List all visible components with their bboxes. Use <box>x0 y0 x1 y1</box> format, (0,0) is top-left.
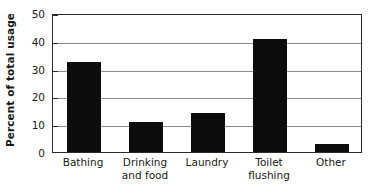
x-axis-tick-label: Toilet flushing <box>248 156 290 181</box>
plot-area <box>52 14 362 153</box>
y-axis-tick-label: 40 <box>32 37 45 48</box>
x-axis-tick-label: Bathing <box>63 156 104 169</box>
y-axis-tick-label: 30 <box>32 64 45 75</box>
y-axis-title-text: Percent of total usage <box>4 13 16 147</box>
bars-layer <box>53 15 361 152</box>
bar <box>67 62 101 152</box>
bar <box>191 113 225 152</box>
y-axis-tick-labels: 01020304050 <box>22 0 48 192</box>
y-axis-tick-label: 20 <box>32 92 45 103</box>
x-axis-tick-label: Other <box>316 156 346 169</box>
bar <box>129 122 163 152</box>
bar <box>253 39 287 152</box>
x-axis-tick-labels: BathingDrinking and foodLaundryToilet fl… <box>52 156 362 192</box>
x-axis-tick-label: Laundry <box>186 156 229 169</box>
y-axis-tick-label: 10 <box>32 120 45 131</box>
bar <box>315 144 349 152</box>
y-axis-title: Percent of total usage <box>0 0 20 160</box>
bar-chart: Percent of total usage 01020304050 Bathi… <box>0 0 382 192</box>
y-axis-tick-label: 50 <box>32 9 45 20</box>
x-axis-tick-label: Drinking and food <box>122 156 168 181</box>
y-axis-tick-label: 0 <box>38 148 45 159</box>
